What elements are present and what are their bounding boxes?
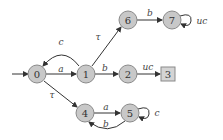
state-1: 1 [77, 65, 95, 83]
svg-text:2: 2 [125, 69, 131, 80]
label-0-1: a [58, 64, 63, 74]
svg-text:7: 7 [169, 15, 175, 26]
label-5-4: b [103, 119, 109, 129]
state-3: 3 [161, 67, 175, 81]
svg-text:0: 0 [34, 69, 40, 80]
svg-text:5: 5 [127, 108, 133, 119]
label-1-0: c [58, 37, 63, 47]
edge-5-5 [138, 108, 149, 119]
state-0: 0 [28, 65, 46, 83]
automaton-diagram: a c τ b uc b uc τ a b c 0 1 2 3 6 7 4 [0, 0, 223, 140]
label-6-7: b [147, 8, 153, 18]
svg-text:6: 6 [125, 15, 131, 26]
label-0-4: τ [50, 90, 56, 100]
label-4-5: a [103, 102, 108, 112]
label-5-5: c [154, 108, 159, 118]
state-2: 2 [119, 65, 137, 83]
state-6: 6 [119, 11, 137, 29]
svg-text:3: 3 [165, 69, 171, 80]
label-7-7: uc [197, 16, 208, 26]
label-2-3: uc [143, 62, 154, 72]
svg-text:1: 1 [83, 69, 89, 80]
state-4: 4 [76, 104, 94, 122]
edge-7-7 [180, 15, 191, 26]
label-1-2: b [102, 63, 108, 73]
label-1-6: τ [96, 32, 102, 42]
svg-text:4: 4 [82, 108, 88, 119]
state-7: 7 [163, 11, 181, 29]
state-5: 5 [121, 104, 139, 122]
